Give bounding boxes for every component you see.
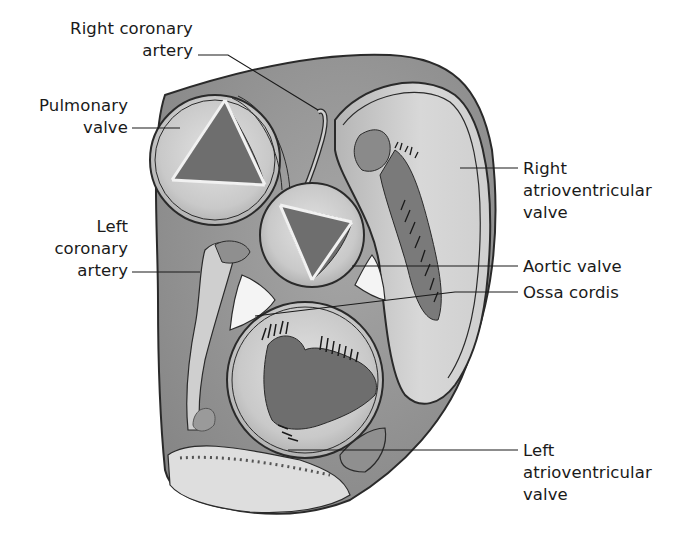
label-left-atrioventricular-valve: Left atrioventricular valve [523,440,652,506]
label-right-coronary-artery: Right coronary artery [70,18,193,62]
label-aortic-valve: Aortic valve [523,256,622,278]
label-right-atrioventricular-valve: Right atrioventricular valve [523,158,652,224]
label-ossa-cordis: Ossa cordis [523,282,619,304]
heart-valves-diagram: Right coronary artery Pulmonary valve Le… [0,0,693,543]
label-pulmonary-valve: Pulmonary valve [39,95,128,139]
aortic-valve-shape [260,183,364,287]
label-left-coronary-artery: Left coronary artery [54,216,128,282]
